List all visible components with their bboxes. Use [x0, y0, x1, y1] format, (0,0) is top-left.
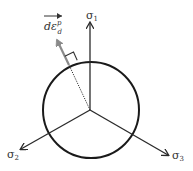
sigma3-axis	[90, 110, 168, 155]
sigma3-label: σ3	[172, 149, 184, 163]
yield-surface-diagram: σ1 σ2 σ3 dεpd	[0, 0, 193, 171]
plastic-strain-vector	[57, 40, 69, 65]
plastic-strain-label: dεpd	[44, 19, 62, 36]
sigma2-label: σ2	[7, 148, 19, 162]
normal-dotted-line	[69, 65, 90, 110]
sigma1-label: σ1	[86, 9, 98, 23]
